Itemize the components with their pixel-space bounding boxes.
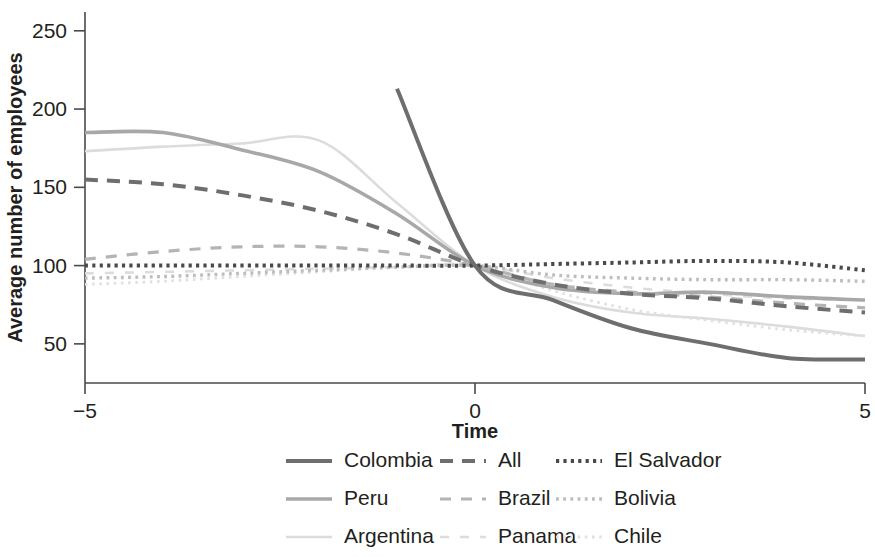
series-lines — [85, 89, 865, 360]
legend-label-bolivia: Bolivia — [614, 486, 676, 509]
x-axis-tick-label: −5 — [73, 399, 97, 422]
legend-label-brazil: Brazil — [498, 486, 551, 509]
x-axis-title: Time — [452, 420, 498, 442]
y-axis-tick-label: 150 — [32, 175, 67, 198]
series-line-brazil — [85, 246, 865, 308]
y-axis-title: Average number of employees — [4, 52, 26, 342]
series-line-argentina — [85, 136, 865, 336]
y-axis-tick-label: 250 — [32, 19, 67, 42]
legend-label-el-salvador: El Salvador — [614, 448, 721, 471]
y-axis: 50100150200250 — [32, 12, 85, 383]
legend-label-all: All — [498, 448, 521, 471]
y-axis-tick-label: 100 — [32, 254, 67, 277]
employees-over-time-line-chart: 50100150200250 −505 TimeAverage number o… — [0, 0, 875, 557]
chart-figure: 50100150200250 −505 TimeAverage number o… — [0, 0, 875, 557]
x-axis-tick-label: 0 — [469, 399, 481, 422]
y-axis-tick-label: 200 — [32, 97, 67, 120]
chart-legend: ColombiaAllEl SalvadorPeruBrazilBoliviaA… — [286, 448, 721, 547]
x-axis: −505 — [73, 383, 871, 422]
legend-label-colombia: Colombia — [344, 448, 433, 471]
legend-label-chile: Chile — [614, 524, 662, 547]
legend-label-argentina: Argentina — [344, 524, 434, 547]
series-line-colombia — [397, 89, 865, 360]
legend-label-panama: Panama — [498, 524, 577, 547]
y-axis-tick-label: 50 — [44, 332, 67, 355]
legend-label-peru: Peru — [344, 486, 388, 509]
x-axis-tick-label: 5 — [859, 399, 871, 422]
